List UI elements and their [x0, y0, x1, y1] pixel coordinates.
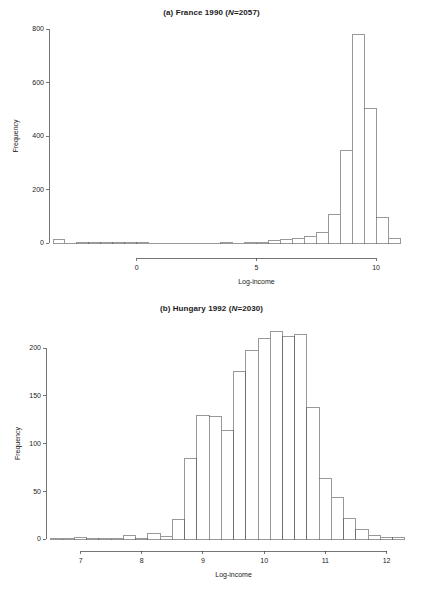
histogram-bar [62, 538, 74, 539]
x-axis: 789101112 [79, 551, 391, 564]
x-axis-tick-label: 9 [201, 557, 205, 564]
histogram-bar [136, 538, 148, 539]
figure-container: (a) France 1990 (N=2057) 0200400600800Fr… [0, 0, 423, 592]
histogram-bar [125, 242, 137, 243]
y-axis-tick-label: 800 [32, 25, 44, 32]
histogram-bar [197, 416, 209, 539]
histogram-bar [160, 536, 172, 539]
y-axis-tick-label: 150 [29, 392, 41, 399]
histogram-bar [352, 35, 364, 243]
histogram-bar [304, 236, 316, 243]
y-axis-tick-label: 600 [32, 79, 44, 86]
histogram-bar [368, 535, 380, 539]
x-axis: 0510 [135, 258, 380, 271]
y-axis: 0200400600800 [32, 25, 49, 246]
histogram-bar [393, 537, 405, 539]
histogram-bar [99, 538, 111, 539]
histogram-bar [172, 520, 184, 539]
x-axis-tick-label: 5 [254, 264, 258, 271]
histogram-bar [307, 407, 319, 539]
panel-hungary-1992: (b) Hungary 1992 (N=2030) 050100150200Fr… [0, 296, 423, 592]
histogram-bar [328, 214, 340, 243]
y-axis-title: Frequency [14, 427, 22, 461]
histogram-bar [340, 151, 352, 243]
histogram-bar [319, 479, 331, 539]
y-axis: 050100150200 [29, 344, 46, 542]
panel-france-1990: (a) France 1990 (N=2057) 0200400600800Fr… [0, 0, 423, 296]
histogram-bar [388, 238, 400, 243]
histogram-bar [268, 241, 280, 243]
y-axis-tick-label: 200 [29, 344, 41, 351]
histogram-bar [113, 242, 125, 243]
histogram-bar [234, 371, 246, 539]
histogram-bar [364, 109, 376, 243]
y-axis-tick-label: 0 [37, 535, 41, 542]
histogram-bar [316, 232, 328, 243]
histogram-bar [148, 533, 160, 539]
x-axis-title: Log-income [238, 278, 275, 286]
histogram-bar [209, 417, 221, 539]
histogram-bar [50, 538, 62, 539]
histogram-bars [50, 332, 405, 539]
x-axis-tick-label: 10 [372, 264, 380, 271]
histogram-bar [380, 537, 392, 539]
histogram-bar [74, 537, 86, 539]
x-axis-tick-label: 12 [383, 557, 391, 564]
histogram-bar [376, 218, 388, 243]
x-axis-title: Log-income [215, 571, 252, 579]
histogram-bar [344, 519, 356, 539]
histogram-bar [270, 332, 282, 539]
histogram-hungary-1992: 050100150200Frequency789101112Log-income [0, 296, 423, 592]
histogram-bar [246, 351, 258, 539]
histogram-bar [185, 459, 197, 539]
histogram-bars [53, 35, 400, 243]
y-axis-tick-label: 100 [29, 440, 41, 447]
histogram-bar [258, 339, 270, 539]
y-axis-tick-label: 200 [32, 186, 44, 193]
x-axis-tick-label: 10 [260, 557, 268, 564]
histogram-france-1990: 0200400600800Frequency0510Log-income [0, 0, 423, 296]
x-axis-tick-label: 0 [135, 264, 139, 271]
y-axis-title: Frequency [12, 119, 20, 153]
y-axis-tick-label: 50 [33, 488, 41, 495]
histogram-bar [283, 337, 295, 539]
histogram-bar [356, 529, 368, 539]
histogram-bar [295, 335, 307, 539]
histogram-bar [221, 430, 233, 539]
histogram-bar [292, 238, 304, 243]
x-axis-tick-label: 11 [322, 557, 329, 564]
histogram-bar [256, 242, 268, 243]
y-axis-tick-label: 400 [32, 132, 44, 139]
histogram-bar [331, 497, 343, 539]
histogram-bar [87, 538, 99, 539]
y-axis-tick-label: 0 [40, 239, 44, 246]
histogram-bar [123, 535, 135, 539]
histogram-bar [53, 239, 65, 243]
x-axis-tick-label: 8 [140, 557, 144, 564]
histogram-bar [111, 538, 123, 539]
x-axis-tick-label: 7 [79, 557, 83, 564]
histogram-bar [280, 240, 292, 243]
